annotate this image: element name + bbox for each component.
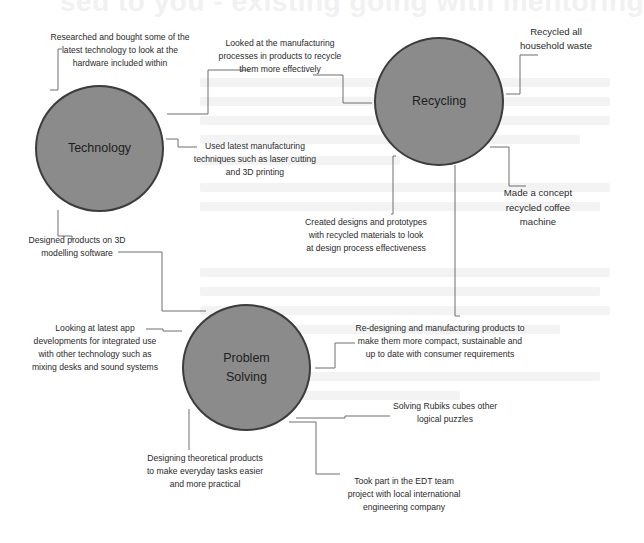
hub-problem-solving-label: Problem Solving (223, 349, 270, 387)
connector-recycle-process (313, 75, 372, 103)
note-line: Re-designing and manufacturing products … (350, 322, 530, 335)
note-line: Researched and bought some of the (30, 31, 210, 44)
note-line: Made a concept (500, 186, 576, 201)
connector-recycled-waste (506, 55, 538, 94)
note-line: with recycled materials to look (296, 229, 436, 242)
note-line: Designing theoretical products (140, 452, 270, 465)
note-line: processes in products to recycle (200, 50, 360, 63)
note-line: Designed products on 3D (20, 234, 134, 247)
hub-technology-label: Technology (68, 139, 131, 158)
note-line: at design process effectiveness (296, 242, 436, 255)
note-line: engineering company (338, 501, 470, 514)
note-redesigning: Re-designing and manufacturing products … (350, 322, 530, 361)
note-line: Took part in the EDT team (338, 475, 470, 488)
note-line: logical puzzles (380, 413, 510, 426)
hub-problem-solving-label-line1: Problem (223, 349, 270, 368)
hub-recycling-label: Recycling (412, 92, 466, 111)
note-line: make them more compact, sustainable and (350, 335, 530, 348)
note-recycled-prototypes: Created designs and prototypes with recy… (296, 216, 436, 255)
note-line: latest technology to look at the (30, 44, 210, 57)
connector-recycled-prototypes (391, 156, 396, 214)
note-recycle-processes: Looked at the manufacturing processes in… (200, 37, 360, 76)
hub-problem-solving-label-line2: Solving (223, 368, 270, 387)
connector-recycle-redesign (455, 165, 460, 316)
connector-rubiks (296, 416, 390, 418)
note-line: mixing desks and sound systems (30, 361, 160, 374)
note-line: Used latest manufacturing (185, 140, 325, 153)
note-line: project with local international (338, 488, 470, 501)
note-line: to make everyday tasks easier (140, 465, 270, 478)
note-line: and 3D printing (185, 166, 325, 179)
hub-recycling: Recycling (374, 37, 504, 166)
note-app-developments: Looking at latest app developments for i… (30, 322, 160, 374)
connector-edt-project (289, 422, 340, 474)
hub-problem-solving: Problem Solving (182, 304, 311, 431)
note-tech-research: Researched and bought some of the latest… (30, 31, 210, 70)
note-edt-project: Took part in the EDT team project with l… (338, 475, 470, 514)
note-line: them more effectively (200, 63, 360, 76)
note-modelling-3d: Designed products on 3D modelling softwa… (20, 234, 134, 260)
hub-technology: Technology (35, 85, 164, 212)
connector-tech-recycle-process (167, 70, 250, 114)
note-recycled-waste: Recycled all household waste (506, 25, 606, 53)
connector-redesign (315, 343, 355, 368)
note-line: up to date with consumer requirements (350, 348, 530, 361)
note-line: modelling software (20, 247, 134, 260)
note-line: recycled coffee (500, 201, 576, 216)
note-line: Looked at the manufacturing (200, 37, 360, 50)
note-tech-manufacturing: Used latest manufacturing techniques suc… (185, 140, 325, 179)
note-coffee-machine: Made a concept recycled coffee machine (500, 186, 576, 230)
note-line: Looking at latest app (30, 322, 160, 335)
connector-coffee-machine (490, 147, 526, 186)
note-theoretical-products: Designing theoretical products to make e… (140, 452, 270, 491)
connector-modelling-problem (118, 252, 206, 311)
note-rubiks: Solving Rubiks cubes other logical puzzl… (380, 400, 510, 426)
note-line: techniques such as laser cutting (185, 153, 325, 166)
note-line: with other technology such as (30, 348, 160, 361)
note-line: hardware included within (30, 57, 210, 70)
note-line: machine (500, 215, 576, 230)
note-line: developments for integrated use (30, 335, 160, 348)
note-line: household waste (506, 39, 606, 53)
note-line: and more practical (140, 478, 270, 491)
note-line: Created designs and prototypes (296, 216, 436, 229)
note-line: Recycled all (506, 25, 606, 39)
note-line: Solving Rubiks cubes other (380, 400, 510, 413)
